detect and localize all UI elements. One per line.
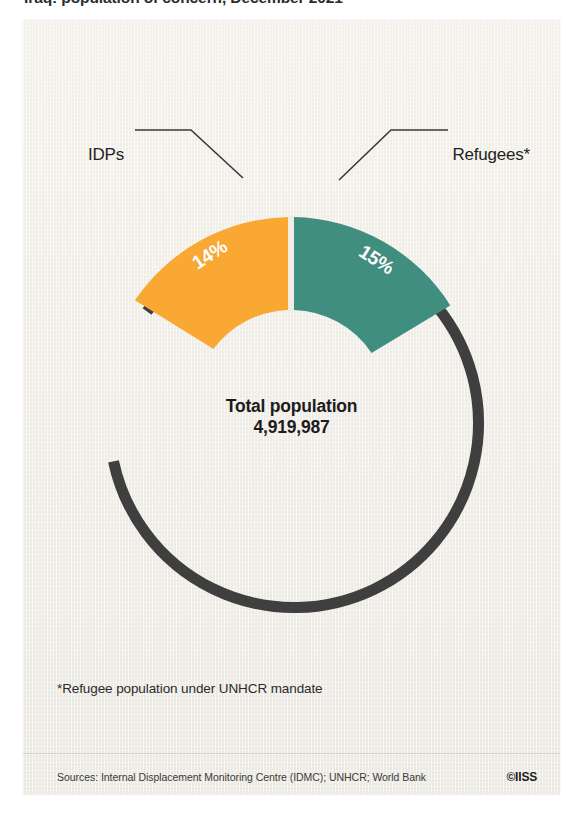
total-population-label: Total population — [23, 396, 560, 417]
callout-label-idps: IDPs — [88, 145, 124, 165]
page-title: Iraq: population of concern, December 20… — [24, 0, 564, 8]
copyright-iiss: ©IISS — [506, 770, 537, 784]
donut-centre-total: Total population 4,919,987 — [23, 396, 560, 438]
total-population-value: 4,919,987 — [23, 417, 560, 438]
donut-slice-idps — [135, 217, 288, 349]
source-bar: Sources: Internal Displacement Monitorin… — [23, 753, 560, 796]
sources-text: Sources: Internal Displacement Monitorin… — [57, 771, 426, 783]
infographic-panel: 14% 15% IDPs Refugees* Total population … — [23, 20, 560, 795]
footnote: *Refugee population under UNHCR mandate — [57, 681, 323, 696]
callout-label-refugees: Refugees* — [452, 145, 530, 165]
leader-line-refugees — [339, 130, 448, 180]
leader-line-idps — [135, 130, 243, 178]
slice-gap-divider — [288, 216, 294, 311]
donut-slice-refugees — [294, 217, 450, 353]
